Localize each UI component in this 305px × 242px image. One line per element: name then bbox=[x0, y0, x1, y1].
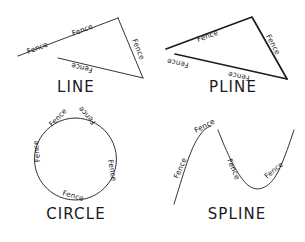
fence-text-label: Fence bbox=[193, 116, 217, 134]
fence-text-label: Fence bbox=[25, 39, 49, 55]
panel-spline: Fence Fence Fence Fence SPLINE bbox=[172, 116, 294, 223]
figure-canvas: Fence Fence Fence Fence LINE Fence Fence… bbox=[0, 0, 305, 242]
panel-pline: Fence Fence Fence Fence PLINE bbox=[166, 17, 287, 96]
circle-outline bbox=[34, 118, 116, 200]
fence-text-label: Fence bbox=[130, 37, 147, 61]
fence-text-label: Fence bbox=[106, 159, 119, 182]
circle-fence-labels: Fence Fence Fence Fence Fence bbox=[31, 104, 119, 203]
panel-line: Fence Fence Fence Fence LINE bbox=[18, 18, 147, 96]
fence-text-label: Fence bbox=[76, 104, 98, 127]
caption-spline: SPLINE bbox=[208, 205, 267, 223]
line-fence-labels: Fence Fence Fence Fence bbox=[25, 21, 146, 74]
fence-text-label: Fence bbox=[31, 140, 42, 163]
circle-entity-geometry bbox=[34, 118, 116, 200]
cad-linetype-figure: Fence Fence Fence Fence LINE Fence Fence… bbox=[0, 0, 305, 242]
fence-text-label: Fence bbox=[47, 106, 69, 128]
fence-text-label: Fence bbox=[196, 28, 220, 44]
fence-text-label: Fence bbox=[166, 56, 190, 69]
fence-text-label: Fence bbox=[70, 21, 94, 37]
fence-text-label: Fence bbox=[172, 156, 189, 180]
panel-circle: Fence Fence Fence Fence Fence CIRCLE bbox=[31, 104, 119, 223]
caption-pline: PLINE bbox=[209, 78, 257, 96]
caption-circle: CIRCLE bbox=[46, 205, 105, 223]
spline-fence-labels: Fence Fence Fence Fence bbox=[172, 116, 286, 181]
fence-text-label: Fence bbox=[61, 188, 85, 203]
fence-text-label: Fence bbox=[225, 157, 242, 181]
caption-line: LINE bbox=[57, 78, 95, 96]
